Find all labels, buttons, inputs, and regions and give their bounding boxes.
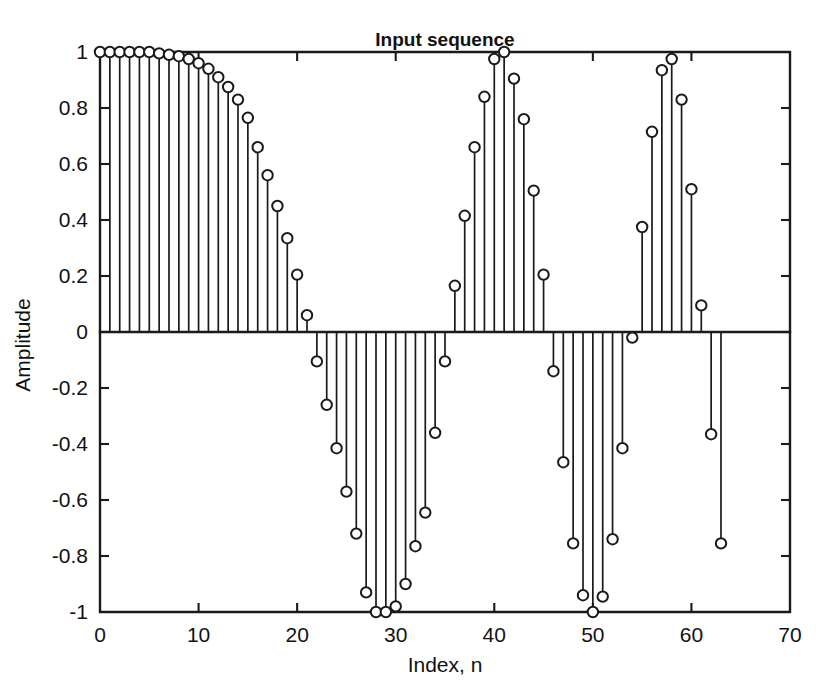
stem-marker — [233, 94, 243, 104]
y-tick-label: -0.2 — [52, 376, 88, 399]
x-tick-label: 40 — [483, 623, 506, 646]
x-tick-label: 70 — [778, 623, 801, 646]
stem-marker — [509, 73, 519, 83]
stem-marker — [578, 590, 588, 600]
stem-marker — [253, 142, 263, 152]
y-tick-label: -1 — [69, 600, 88, 623]
stem-marker — [479, 92, 489, 102]
stem-marker — [400, 579, 410, 589]
chart-figure: Input sequence 010203040506070 -1-0.8-0.… — [0, 0, 834, 690]
chart-title: Input sequence — [375, 29, 514, 50]
stem-marker — [667, 54, 677, 64]
stem-marker — [469, 142, 479, 152]
stem-marker — [351, 528, 361, 538]
x-tick-label: 0 — [94, 623, 106, 646]
stem-marker — [331, 443, 341, 453]
stem-marker — [420, 507, 430, 517]
x-axis-label: Index, n — [408, 653, 483, 676]
stem-marker — [499, 47, 509, 57]
stem-marker — [302, 310, 312, 320]
stem-marker — [144, 47, 154, 57]
stem-marker — [134, 47, 144, 57]
y-tick-label: -0.6 — [52, 488, 88, 511]
stem-marker — [450, 281, 460, 291]
stem-marker — [686, 184, 696, 194]
stem-marker — [361, 587, 371, 597]
x-tick-label: 30 — [384, 623, 407, 646]
stem-marker — [637, 222, 647, 232]
y-tick-label: 0.8 — [59, 96, 88, 119]
stem-marker — [529, 185, 539, 195]
stem-marker — [647, 127, 657, 137]
stem-marker — [548, 366, 558, 376]
y-tick-label: 0.4 — [59, 208, 89, 231]
stem-marker — [203, 64, 213, 74]
stem-marker — [115, 47, 125, 57]
stem-marker — [124, 47, 134, 57]
y-tick-label: -0.4 — [52, 432, 89, 455]
stem-marker — [193, 58, 203, 68]
y-tick-label: 0 — [76, 320, 88, 343]
stem-marker — [430, 428, 440, 438]
stem-marker — [105, 47, 115, 57]
stem-marker — [223, 82, 233, 92]
stem-marker — [184, 54, 194, 64]
stem-marker — [391, 601, 401, 611]
stem-marker — [627, 332, 637, 342]
x-tick-label: 50 — [581, 623, 604, 646]
stem-plot-svg: Input sequence 010203040506070 -1-0.8-0.… — [0, 0, 834, 690]
stem-marker — [716, 538, 726, 548]
stem-marker — [568, 538, 578, 548]
stem-marker — [696, 300, 706, 310]
stem-marker — [676, 94, 686, 104]
y-tick-label: 0.6 — [59, 152, 88, 175]
stem-marker — [381, 607, 391, 617]
stem-marker — [213, 72, 223, 82]
stem-marker — [460, 211, 470, 221]
stem-marker — [440, 356, 450, 366]
stem-marker — [706, 429, 716, 439]
y-tick-label: 1 — [76, 40, 88, 63]
stem-marker — [371, 607, 381, 617]
stem-marker — [588, 607, 598, 617]
stem-marker — [538, 269, 548, 279]
stem-marker — [243, 113, 253, 123]
plot-background — [0, 0, 834, 690]
stem-marker — [519, 114, 529, 124]
y-tick-label: 0.2 — [59, 264, 88, 287]
stem-marker — [174, 51, 184, 61]
stem-marker — [322, 400, 332, 410]
stem-marker — [272, 201, 282, 211]
y-tick-label: -0.8 — [52, 544, 88, 567]
stem-marker — [164, 50, 174, 60]
stem-marker — [617, 443, 627, 453]
stem-marker — [154, 48, 164, 58]
stem-marker — [312, 356, 322, 366]
stem-marker — [607, 534, 617, 544]
stem-marker — [341, 486, 351, 496]
stem-marker — [489, 54, 499, 64]
stem-marker — [292, 269, 302, 279]
stem-marker — [657, 65, 667, 75]
x-tick-label: 20 — [285, 623, 308, 646]
stem-marker — [558, 457, 568, 467]
x-tick-label: 10 — [187, 623, 210, 646]
stem-marker — [410, 541, 420, 551]
x-tick-label: 60 — [680, 623, 703, 646]
y-axis-label: Amplitude — [11, 298, 34, 391]
stem-marker — [95, 47, 105, 57]
stem-marker — [282, 233, 292, 243]
stem-marker — [598, 591, 608, 601]
stem-marker — [262, 170, 272, 180]
